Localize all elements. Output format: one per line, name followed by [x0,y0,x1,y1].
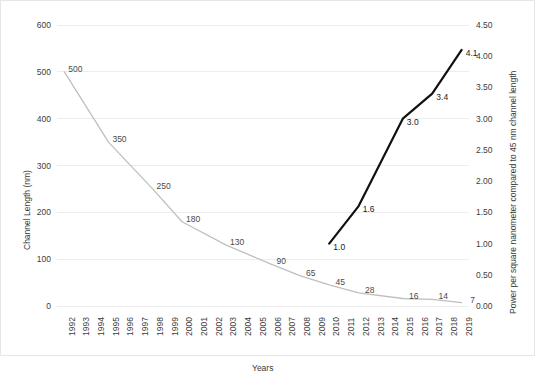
x-axis-tick-label: 2002 [215,317,224,336]
x-axis-tick-label: 2015 [406,317,415,336]
data-point-label: 90 [277,257,286,266]
x-axis-tick-label: 1993 [82,317,91,336]
right-axis-tick-label: 4.00 [476,52,493,61]
left-axis-tick-label: 100 [13,255,51,264]
data-point-label: 1.0 [333,242,345,251]
right-axis-tick-label: 0.50 [476,271,493,280]
left-axis-tick-label: 400 [13,114,51,123]
x-axis-tick-label: 2017 [435,317,444,336]
x-axis-tick-label: 2000 [185,317,194,336]
data-point-label: 130 [230,238,244,247]
left-axis-title: Channel Length (nm) [23,170,32,250]
gridlines-group [57,25,469,306]
x-axis-tick-label: 2006 [274,317,283,336]
x-axis-tick-label: 2016 [421,317,430,336]
left-axis-tick-label: 600 [13,21,51,30]
right-axis-title: Power per square nanometer compared to 4… [509,71,518,314]
data-point-label: 3.0 [407,117,419,126]
data-point-label: 350 [112,135,126,144]
data-point-label: 16 [409,291,418,300]
x-axis-tick-label: 2012 [362,317,371,336]
x-axis-tick-label: 2013 [377,317,386,336]
right-axis-tick-label: 2.00 [476,177,493,186]
right-axis-tick-label: 1.50 [476,208,493,217]
series-path [329,50,461,244]
data-point-label: 4.1 [466,49,478,58]
x-axis-tick-label: 1994 [97,317,106,336]
data-point-label: 65 [306,268,315,277]
series-power-line [329,50,461,244]
chart-canvas [1,1,535,357]
left-axis-tick-label: 300 [13,161,51,170]
x-axis-tick-label: 2003 [229,317,238,336]
x-axis-tick-label: 2018 [450,317,459,336]
left-axis-tick-label: 500 [13,68,51,77]
right-axis-tick-label: 3.00 [476,114,493,123]
x-axis-tick-label: 1997 [141,317,150,336]
x-axis-tick-label: 2014 [391,317,400,336]
x-axis-title: Years [252,364,273,373]
x-axis-tick-label: 1995 [112,317,121,336]
x-axis-tick-label: 2011 [347,318,356,336]
x-axis-tick-label: 1992 [68,317,77,336]
data-point-label: 180 [186,214,200,223]
x-axis-tick-label: 2004 [244,317,253,336]
left-axis-tick-label: 0 [13,302,51,311]
data-point-label: 14 [438,292,447,301]
x-axis-tick-label: 2001 [200,317,209,336]
x-axis-tick-label: 2019 [465,317,474,336]
data-point-label: 3.4 [436,92,448,101]
x-axis-tick-label: 1996 [126,317,135,336]
data-point-label: 250 [157,182,171,191]
x-axis-tick-label: 2007 [288,317,297,336]
right-axis-tick-label: 2.50 [476,146,493,155]
right-axis-tick-label: 3.50 [476,83,493,92]
data-point-label: 45 [335,278,344,287]
left-axis-tick-label: 200 [13,208,51,217]
x-axis-tick-label: 2010 [332,317,341,336]
series-channel-length-line [64,72,461,303]
data-point-label: 28 [365,286,374,295]
right-axis-tick-label: 1.00 [476,239,493,248]
x-axis-tick-label: 2009 [318,317,327,336]
x-axis-tick-label: 2005 [259,317,268,336]
x-axis-tick-label: 2008 [303,317,312,336]
series-path [64,72,461,303]
x-axis-tick-label: 1998 [156,317,165,336]
data-point-label: 500 [68,65,82,74]
right-axis-tick-label: 0.00 [476,302,493,311]
data-point-label: 1.6 [363,205,375,214]
right-axis-tick-label: 4.50 [476,21,493,30]
data-point-label: 7 [470,295,475,304]
x-axis-tick-label: 1999 [171,317,180,336]
